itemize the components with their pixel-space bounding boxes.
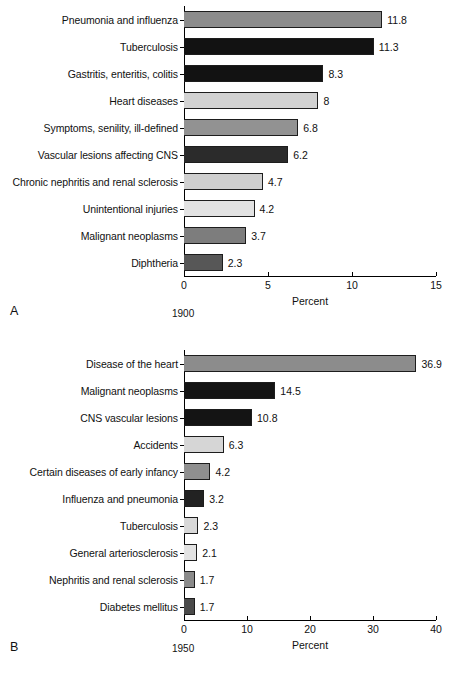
bar-row: Tuberculosis11.3 [0, 33, 465, 60]
category-label: Pneumonia and influenza [0, 14, 184, 26]
bar-row: Malignant neoplasms14.5 [0, 377, 465, 404]
x-axis-tick [184, 272, 185, 276]
bar-container: 4.2 [184, 195, 465, 222]
x-axis-tick-label: 10 [241, 623, 253, 635]
x-axis-tick [184, 616, 185, 620]
category-label: Certain diseases of early infancy [0, 466, 184, 478]
bar [184, 254, 223, 271]
bar-row: Gastritis, enteritis, colitis8.3 [0, 60, 465, 87]
bar-rows-b: Disease of the heart36.9Malignant neopla… [0, 350, 465, 620]
chart-panel-a: Pneumonia and influenza11.8Tuberculosis1… [0, 0, 465, 340]
x-axis-a [184, 276, 436, 277]
x-axis-tick [247, 616, 248, 620]
bar [184, 436, 224, 453]
category-label: Diphtheria [0, 257, 184, 269]
bar-container: 4.2 [184, 458, 465, 485]
bar-value-label: 11.8 [387, 14, 407, 26]
bar-value-label: 11.3 [379, 41, 399, 53]
x-axis-tick [436, 272, 437, 276]
bar [184, 571, 195, 588]
bar [184, 92, 318, 109]
bar [184, 409, 252, 426]
bar-row: Influenza and pneumonia3.2 [0, 485, 465, 512]
category-label: Heart diseases [0, 95, 184, 107]
bar [184, 38, 374, 55]
bar-row: Accidents6.3 [0, 431, 465, 458]
bar-row: Malignant neoplasms3.7 [0, 222, 465, 249]
bar [184, 382, 275, 399]
bar-value-label: 14.5 [280, 385, 300, 397]
bar-container: 2.3 [184, 512, 465, 539]
bar-value-label: 1.7 [200, 574, 215, 586]
bar-container: 8.3 [184, 60, 465, 87]
x-axis-tick [352, 272, 353, 276]
category-label: Influenza and pneumonia [0, 493, 184, 505]
bar-container: 1.7 [184, 593, 465, 620]
bar-container: 2.1 [184, 539, 465, 566]
x-axis-tick-label: 15 [430, 279, 442, 291]
bar-container: 6.3 [184, 431, 465, 458]
bar-container: 10.8 [184, 404, 465, 431]
bar-value-label: 2.3 [228, 257, 243, 269]
bar-container: 2.3 [184, 249, 465, 276]
bar [184, 200, 255, 217]
bar-row: Diphtheria2.3 [0, 249, 465, 276]
bar-row: Disease of the heart36.9 [0, 350, 465, 377]
bar-container: 3.2 [184, 485, 465, 512]
x-axis-tick-label: 5 [265, 279, 271, 291]
bar [184, 490, 204, 507]
bar-container: 11.8 [184, 6, 465, 33]
category-label: Malignant neoplasms [0, 385, 184, 397]
bar-container: 3.7 [184, 222, 465, 249]
x-axis-tick [436, 616, 437, 620]
bar-row: Diabetes mellitus1.7 [0, 593, 465, 620]
bar-row: Heart diseases8 [0, 87, 465, 114]
x-axis-title-a: Percent [292, 295, 328, 307]
bar-value-label: 10.8 [257, 412, 277, 424]
panel-letter-a: A [10, 304, 18, 318]
x-axis-tick [373, 616, 374, 620]
x-axis-b [184, 620, 436, 621]
bar-container: 6.8 [184, 114, 465, 141]
bar-container: 11.3 [184, 33, 465, 60]
bar-row: CNS vascular lesions10.8 [0, 404, 465, 431]
x-axis-tick [310, 616, 311, 620]
category-label: Diabetes mellitus [0, 601, 184, 613]
x-axis-tick-label: 0 [181, 623, 187, 635]
x-axis-tick [268, 272, 269, 276]
category-label: General arteriosclerosis [0, 547, 184, 559]
bar-container: 4.7 [184, 168, 465, 195]
bar-value-label: 8 [323, 95, 329, 107]
bar-value-label: 8.3 [328, 68, 343, 80]
bar-row: General arteriosclerosis2.1 [0, 539, 465, 566]
panel-year-b: 1950 [172, 643, 194, 654]
category-label: Accidents [0, 439, 184, 451]
panel-year-a: 1900 [172, 308, 194, 319]
bar [184, 544, 197, 561]
category-label: Nephritis and renal sclerosis [0, 574, 184, 586]
bar-row: Chronic nephritis and renal sclerosis4.7 [0, 168, 465, 195]
x-axis-tick-label: 30 [367, 623, 379, 635]
bar [184, 598, 195, 615]
bar-value-label: 3.2 [209, 493, 224, 505]
category-label: Malignant neoplasms [0, 230, 184, 242]
bar-value-label: 4.2 [215, 466, 230, 478]
x-axis-tick-label: 40 [430, 623, 442, 635]
bar-container: 36.9 [184, 350, 465, 377]
category-label: CNS vascular lesions [0, 412, 184, 424]
bar-value-label: 2.3 [203, 520, 218, 532]
bar-value-label: 6.2 [293, 149, 308, 161]
bar-value-label: 6.3 [229, 439, 244, 451]
bar [184, 355, 416, 372]
bar-value-label: 2.1 [202, 547, 217, 559]
bar-rows-a: Pneumonia and influenza11.8Tuberculosis1… [0, 6, 465, 276]
bar-value-label: 4.7 [268, 176, 283, 188]
bar [184, 463, 210, 480]
bar-value-label: 4.2 [260, 203, 275, 215]
x-axis-title-b: Percent [292, 639, 328, 651]
bar [184, 65, 323, 82]
bar [184, 173, 263, 190]
category-label: Tuberculosis [0, 41, 184, 53]
category-label: Disease of the heart [0, 358, 184, 370]
category-label: Chronic nephritis and renal sclerosis [0, 176, 184, 188]
